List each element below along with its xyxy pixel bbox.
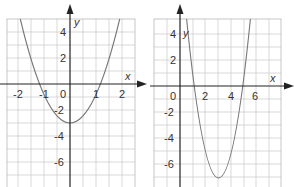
right-ytick: -4 (164, 132, 174, 144)
left-xtick: 2 (119, 88, 125, 100)
left-ytick: 2 (60, 52, 66, 64)
left-ytick: 4 (60, 26, 66, 38)
left-xtick: -2 (13, 88, 23, 100)
left-x-label: x (124, 70, 131, 82)
right-xtick: 0 (170, 90, 176, 102)
right-ytick: 4 (170, 28, 176, 40)
left-y-arrow-icon (67, 4, 74, 14)
left-ytick: -6 (54, 156, 64, 168)
right-x-arrow-icon (284, 83, 294, 90)
left-ytick: -4 (54, 130, 64, 142)
right-parabola (187, 19, 251, 178)
left-xtick: -1 (39, 88, 49, 100)
left-xtick: 0 (60, 88, 66, 100)
left-y-label: y (73, 16, 81, 28)
right-xtick: 4 (228, 90, 234, 102)
right-xtick: 6 (252, 90, 258, 102)
right-ytick: 2 (170, 54, 176, 66)
left-x-arrow-icon (137, 81, 147, 88)
left-chart: x y -2 -1 0 1 2 4 2 -2 -4 -6 (0, 4, 147, 187)
right-ytick: -6 (164, 158, 174, 170)
right-ytick: -2 (164, 106, 174, 118)
right-y-arrow-icon (177, 4, 184, 14)
right-chart: x y 0 2 4 6 4 2 -2 -4 -6 (150, 4, 294, 187)
charts-canvas: x y -2 -1 0 1 2 4 2 -2 -4 -6 (0, 0, 294, 187)
right-xtick: 2 (202, 90, 208, 102)
left-ytick: -2 (54, 104, 64, 116)
right-x-label: x (269, 72, 276, 84)
left-xtick: 1 (93, 88, 99, 100)
